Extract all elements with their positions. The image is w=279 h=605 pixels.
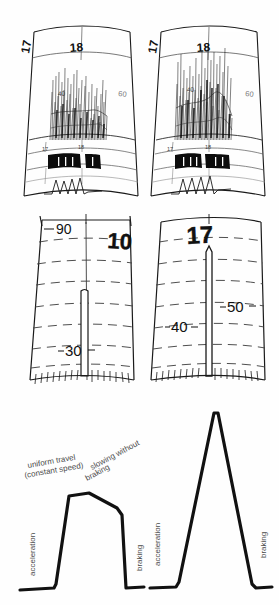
scale-label-90: 90 [56,221,72,237]
annotation-slowing-line1: slowing without [89,438,142,472]
speed-profile-curve [150,413,272,588]
tachograph-sector-right-svg: 17 18 60 40 17 18 [145,18,271,204]
panel-bottom-left: uniform travel (constant speed) slowing … [14,398,149,598]
speed-label-inner: 40 [58,90,66,97]
scale-label-30: 30 [65,342,82,359]
time-band-label-right: 18 [205,144,211,150]
annotation-acceleration: acceleration [28,533,37,576]
scale-label-17: 17 [186,221,214,249]
hour-label-left: 17 [145,39,161,55]
tachograph-sector-left-svg: 17 18 60 40 17 18 [18,18,144,204]
speed-scale-detail-right-svg: 17 50 40 [145,208,271,390]
scale-label-50: 50 [227,298,244,315]
panel-top-right: 17 18 60 40 17 18 [145,18,271,204]
speed-trace-envelope [51,110,107,116]
annotation-braking: braking [259,532,268,558]
radial-tick-17-dist [172,168,173,184]
speed-scale-detail-left-svg: 90 10 30 [18,208,140,390]
annotation-braking: braking [135,545,144,571]
speed-profile-trapezoid-svg: uniform travel (constant speed) slowing … [14,398,149,598]
hour-label-center: 18 [196,40,211,55]
radial-tick-17-dist [45,168,46,184]
speed-label-outer: 60 [118,89,127,99]
speed-label-inner: 40 [187,86,195,93]
time-band-label-left: 17 [167,146,173,152]
time-band-label-right: 18 [78,144,84,150]
speed-profile-curve [20,493,144,590]
scale-label-40: 40 [171,318,188,335]
stylus-pen-mark [81,290,88,377]
arc-speed-baseline [156,134,262,140]
figure-canvas: 17 18 60 40 17 18 [0,0,279,605]
panel-mid-left: 90 10 30 [18,208,140,390]
hour-label-left: 17 [18,39,34,55]
annotation-acceleration: acceleration [153,523,162,566]
panel-bottom-right: acceleration braking [148,398,276,598]
panel-mid-right: 17 50 40 [145,208,271,390]
scale-label-10: 10 [107,228,133,255]
hour-label-center: 18 [69,40,84,55]
stylus-pen-mark [206,246,212,376]
panel-top-left: 17 18 60 40 17 18 [18,18,144,204]
speed-label-outer: 60 [245,89,254,99]
speed-profile-peak-svg: acceleration braking [148,398,276,598]
time-band-label-left: 17 [42,146,48,152]
